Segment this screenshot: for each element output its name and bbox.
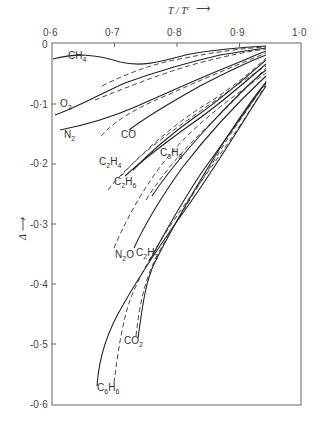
x-tick-labels: 0·6 0·7 0·8 0·9 1·0 — [43, 27, 307, 38]
x-axis-title: T / Tc ⟶ — [168, 3, 210, 16]
svg-text:-0·3: -0·3 — [30, 219, 48, 230]
label-c2h4: C2H4 — [99, 156, 121, 169]
curve-n2o — [134, 76, 266, 248]
label-c3h8: C3H8 — [160, 147, 182, 160]
svg-text:T / Tc: T / Tc — [168, 4, 191, 16]
svg-text:0·6: 0·6 — [43, 27, 58, 38]
curve-c2h4 — [133, 60, 266, 170]
label-c2h6: C2H6 — [114, 176, 136, 189]
label-ch4: CH4 — [68, 50, 86, 63]
label-n2o: N2O — [115, 249, 134, 262]
label-n2: N2 — [64, 129, 75, 142]
curve-n2o-calc — [114, 73, 266, 248]
svg-text:-0·2: -0·2 — [30, 158, 48, 169]
label-co2: CO2 — [124, 335, 143, 348]
svg-text:-0·1: -0·1 — [30, 99, 48, 110]
plot-frame — [52, 43, 301, 405]
x-axis-arrow: ⟶ — [196, 3, 210, 14]
svg-text:-0·4: -0·4 — [30, 279, 48, 290]
label-c6h6: C6H6 — [97, 382, 119, 395]
svg-text:0·8: 0·8 — [167, 27, 182, 38]
curve-c2h4-calc — [121, 58, 266, 176]
label-o2: O2 — [60, 98, 72, 111]
curve-labels: CH4 O2 N2 CO C2H4 C2H6 C3H8 N2O C2H2 CO2… — [60, 50, 182, 395]
chart: T / Tc ⟶ 0·6 0·7 0·8 0·9 1·0 0 -0·1 -0·2… — [0, 0, 322, 421]
label-c2h2: C2H2 — [136, 247, 158, 260]
label-co: CO — [121, 129, 136, 140]
axis-ticks — [52, 43, 240, 344]
curves — [53, 46, 266, 386]
svg-text:0: 0 — [42, 39, 48, 50]
y-tick-labels: 0 -0·1 -0·2 -0·3 -0·4 -0·5 -0·6 — [30, 39, 48, 410]
svg-text:-0·5: -0·5 — [30, 339, 48, 350]
svg-text:0·9: 0·9 — [230, 27, 245, 38]
svg-text:0·7: 0·7 — [105, 27, 120, 38]
svg-text:1·0: 1·0 — [292, 27, 307, 38]
y-axis-title: Δ ⟶ — [17, 217, 28, 241]
curve-o2 — [55, 48, 266, 115]
svg-text:-0·6: -0·6 — [30, 399, 48, 410]
curve-co2 — [138, 83, 266, 338]
